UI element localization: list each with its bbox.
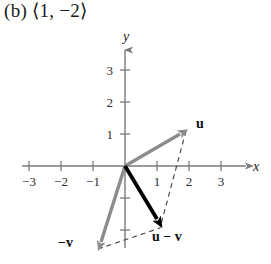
y-tick-labels: 1 2 3 bbox=[107, 63, 114, 142]
vector-label-u: u bbox=[196, 116, 204, 131]
vector-figure: (b) ⟨1, −2⟩ bbox=[0, 0, 271, 264]
vector-label-u-minus-v: u − v bbox=[152, 229, 182, 244]
axes bbox=[22, 50, 246, 248]
y-tick-label-2: 3 bbox=[107, 63, 114, 78]
vector-diagram-svg: −3 −2 −1 1 2 3 1 2 3 x y u bbox=[0, 0, 271, 264]
y-tick-label-1: 2 bbox=[107, 95, 114, 110]
y-tick-label-0: 1 bbox=[107, 127, 114, 142]
x-axis-label: x bbox=[252, 159, 260, 174]
dashed-minus-v-to-u-minus-v bbox=[98, 228, 160, 249]
vector-u-arrow bbox=[125, 134, 180, 166]
dashed-u-to-u-minus-v bbox=[160, 131, 186, 228]
vector-label-minus-v: −v bbox=[58, 235, 73, 250]
x-tick-label-4: 2 bbox=[186, 174, 193, 189]
x-tick-label-3: 1 bbox=[154, 174, 161, 189]
x-tick-label-2: −1 bbox=[86, 174, 100, 189]
vector-u-minus-v bbox=[125, 166, 157, 219]
vector-u-minus-v-arrow bbox=[125, 166, 157, 219]
vector-u bbox=[125, 134, 180, 166]
x-tick-label-0: −3 bbox=[22, 174, 36, 189]
x-tick-label-5: 3 bbox=[218, 174, 225, 189]
y-axis-label: y bbox=[121, 29, 130, 44]
x-tick-label-1: −2 bbox=[54, 174, 68, 189]
